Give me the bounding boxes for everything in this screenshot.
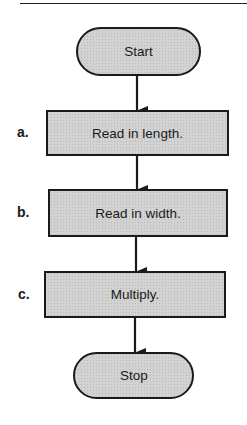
step-label-b: b.: [17, 204, 29, 220]
flowchart: Start Read in length. Read in width. Mul…: [0, 0, 247, 425]
process-box-a: Read in length.: [47, 111, 228, 155]
step-label-c: c.: [18, 286, 30, 302]
process-a-text: Read in length.: [92, 126, 183, 141]
start-text: Start: [124, 44, 153, 59]
process-b-text: Read in width.: [95, 206, 181, 221]
step-label-a: a.: [17, 124, 29, 140]
stop-terminal: Stop: [74, 353, 193, 398]
start-terminal: Start: [77, 28, 200, 75]
stop-text: Stop: [120, 368, 148, 383]
process-c-text: Multiply.: [111, 287, 160, 302]
process-box-b: Read in width.: [49, 190, 227, 236]
process-box-c: Multiply.: [45, 272, 225, 317]
